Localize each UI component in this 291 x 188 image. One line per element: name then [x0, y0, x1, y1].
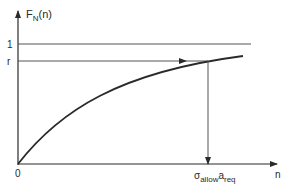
level-one-label: 1: [7, 39, 13, 50]
x-axis-label: n: [275, 169, 281, 180]
y-axis-label: FN(n): [26, 8, 52, 23]
level-r-label: r: [7, 56, 11, 67]
distribution-curve: [18, 56, 243, 164]
required-n-label: σallowareq: [194, 170, 236, 184]
reliability-diagram: FN(n) 1 r 0 n σallowareq: [0, 0, 291, 188]
origin-label: 0: [15, 168, 21, 179]
